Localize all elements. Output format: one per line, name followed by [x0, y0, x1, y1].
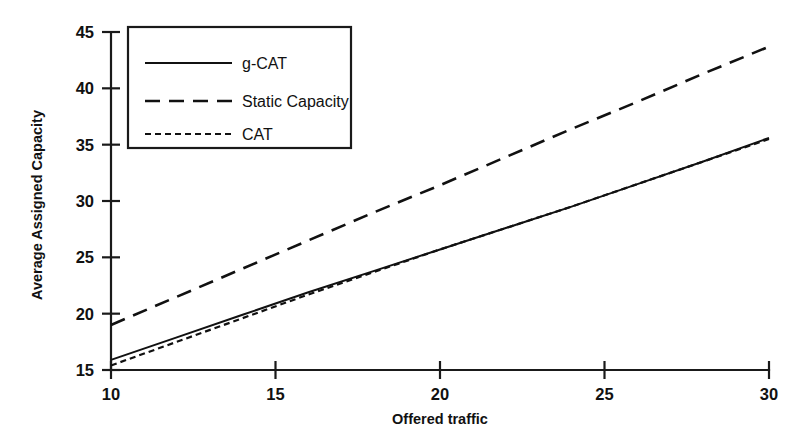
x-axis-ticks: 1015202530 — [102, 361, 778, 403]
y-tick-label: 15 — [76, 361, 94, 379]
y-tick-label: 35 — [76, 136, 94, 154]
x-tick-label: 30 — [760, 385, 778, 403]
legend-label-g-cat: g-CAT — [242, 55, 287, 72]
x-tick-label: 25 — [595, 385, 613, 403]
x-tick-label: 20 — [431, 385, 449, 403]
legend-label-static-capacity: Static Capacity — [242, 93, 349, 110]
line-chart: 15202530354045 1015202530 Offered traffi… — [0, 0, 811, 440]
y-tick-label: 40 — [76, 79, 94, 97]
y-tick-label: 45 — [76, 23, 94, 41]
legend-label-cat: CAT — [242, 126, 273, 143]
series-line-cat — [111, 139, 769, 365]
series-line-g-cat — [111, 138, 769, 360]
y-axis-ticks: 15202530354045 — [76, 23, 120, 379]
x-tick-label: 10 — [102, 385, 120, 403]
legend[interactable]: g-CATStatic CapacityCAT — [128, 27, 351, 148]
figure-canvas: 15202530354045 1015202530 Offered traffi… — [0, 0, 811, 440]
y-tick-label: 20 — [76, 305, 94, 323]
y-tick-label: 30 — [76, 192, 94, 210]
x-tick-label: 15 — [266, 385, 284, 403]
x-axis-label: Offered traffic — [392, 411, 488, 427]
y-axis-label: Average Assigned Capacity — [29, 110, 45, 300]
y-tick-label: 25 — [76, 248, 94, 266]
legend-box — [128, 27, 351, 148]
